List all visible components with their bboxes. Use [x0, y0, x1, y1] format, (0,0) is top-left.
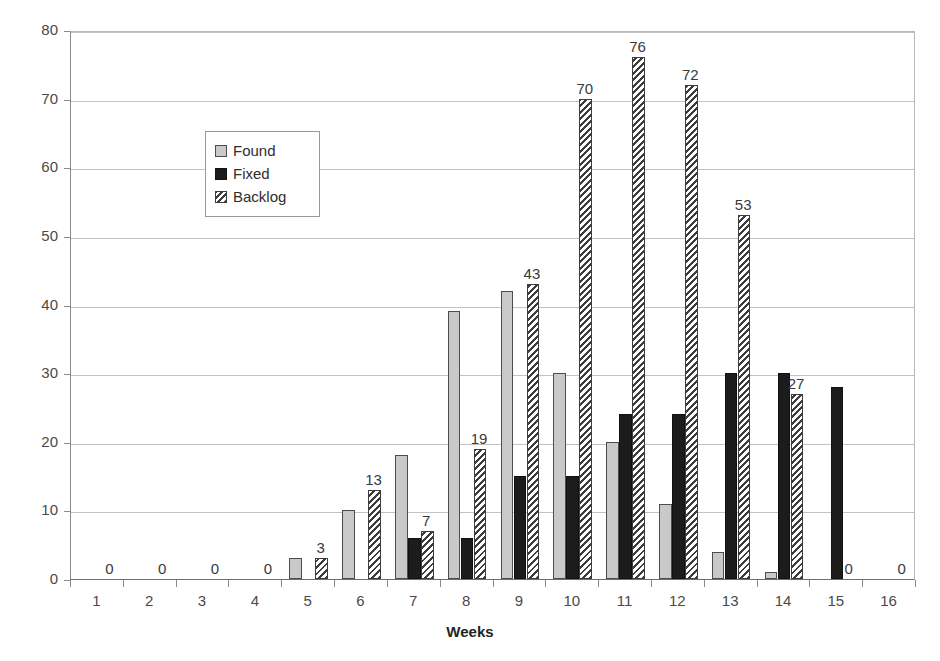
x-axis-title: Weeks: [0, 623, 940, 640]
gridline-70: [71, 101, 914, 102]
x-tick-mark-8: [440, 580, 441, 587]
x-tick-mark-15: [809, 580, 810, 587]
bar-found-week-13: [712, 552, 725, 579]
bar-fixed-week-10: [566, 476, 579, 579]
bar-found-week-11: [606, 442, 619, 579]
bar-backlog-week-11: [632, 57, 645, 579]
bar-backlog-week-8: [474, 449, 487, 579]
y-tick-label-40: 40: [12, 296, 58, 313]
value-label-week-10: 70: [565, 80, 605, 97]
bar-fixed-week-13: [725, 373, 738, 579]
x-tick-label-3: 3: [177, 592, 227, 609]
gridline-80: [71, 32, 914, 33]
x-tick-mark-11: [598, 580, 599, 587]
x-tick-label-12: 12: [652, 592, 702, 609]
x-tick-label-15: 15: [811, 592, 861, 609]
value-label-week-8: 19: [459, 430, 499, 447]
legend-label-fixed: Fixed: [233, 166, 270, 181]
value-label-week-1: 0: [89, 560, 129, 577]
bar-backlog-week-5: [315, 558, 328, 579]
x-tick-label-8: 8: [441, 592, 491, 609]
bar-found-week-12: [659, 504, 672, 579]
x-tick-mark-3: [176, 580, 177, 587]
legend-label-backlog: Backlog: [233, 189, 286, 204]
x-tick-mark-4: [228, 580, 229, 587]
value-label-week-5: 3: [301, 539, 341, 556]
y-tick-label-10: 10: [12, 501, 58, 518]
bar-found-week-9: [501, 291, 514, 579]
plot-area: [70, 31, 915, 580]
value-label-week-16: 0: [882, 560, 922, 577]
x-tick-label-16: 16: [864, 592, 914, 609]
gridline-40: [71, 307, 914, 308]
gridline-50: [71, 238, 914, 239]
x-tick-mark-14: [757, 580, 758, 587]
x-tick-label-5: 5: [283, 592, 333, 609]
bar-found-week-10: [553, 373, 566, 579]
x-tick-mark-16: [862, 580, 863, 587]
value-label-week-7: 7: [406, 512, 446, 529]
x-tick-mark-13: [704, 580, 705, 587]
x-tick-label-9: 9: [494, 592, 544, 609]
bar-backlog-week-14: [791, 394, 804, 579]
y-tick-label-0: 0: [12, 570, 58, 587]
legend-item-backlog: Backlog: [215, 185, 310, 208]
x-tick-label-10: 10: [547, 592, 597, 609]
chart-legend: Found Fixed Backlog: [205, 131, 320, 217]
bar-found-week-6: [342, 510, 355, 579]
x-tick-label-2: 2: [124, 592, 174, 609]
bar-backlog-week-13: [738, 215, 751, 579]
bar-found-week-14: [765, 572, 778, 579]
bar-backlog-week-7: [421, 531, 434, 579]
y-tick-label-80: 80: [12, 21, 58, 38]
x-tick-mark-end: [915, 580, 916, 587]
legend-label-found: Found: [233, 143, 276, 158]
x-tick-label-7: 7: [388, 592, 438, 609]
value-label-week-12: 72: [670, 66, 710, 83]
x-tick-label-13: 13: [705, 592, 755, 609]
y-tick-label-30: 30: [12, 364, 58, 381]
x-tick-mark-10: [545, 580, 546, 587]
value-label-week-15: 0: [829, 560, 869, 577]
legend-swatch-fixed-icon: [215, 168, 227, 180]
bar-fixed-week-8: [461, 538, 474, 579]
legend-item-found: Found: [215, 139, 310, 162]
legend-swatch-found-icon: [215, 145, 227, 157]
value-label-week-9: 43: [512, 265, 552, 282]
x-tick-mark-5: [281, 580, 282, 587]
bar-fixed-week-9: [514, 476, 527, 579]
bar-fixed-week-12: [672, 414, 685, 579]
value-label-week-3: 0: [195, 560, 235, 577]
x-tick-mark-9: [493, 580, 494, 587]
x-tick-mark-1: [70, 580, 71, 587]
y-tick-label-50: 50: [12, 227, 58, 244]
x-tick-label-6: 6: [335, 592, 385, 609]
bar-fixed-week-7: [408, 538, 421, 579]
bar-backlog-week-10: [579, 99, 592, 579]
value-label-week-13: 53: [723, 196, 763, 213]
legend-swatch-backlog-icon: [215, 191, 227, 203]
bar-fixed-week-15: [831, 387, 844, 579]
value-label-week-6: 13: [353, 471, 393, 488]
defect-trend-chart: Number of Defects 01020304050607080 0000…: [0, 0, 940, 661]
x-tick-label-1: 1: [71, 592, 121, 609]
value-label-week-4: 0: [248, 560, 288, 577]
y-tick-label-60: 60: [12, 158, 58, 175]
x-tick-label-14: 14: [758, 592, 808, 609]
bar-fixed-week-14: [778, 373, 791, 579]
legend-item-fixed: Fixed: [215, 162, 310, 185]
gridline-60: [71, 169, 914, 170]
y-tick-label-70: 70: [12, 90, 58, 107]
bar-backlog-week-12: [685, 85, 698, 579]
x-tick-mark-12: [651, 580, 652, 587]
bar-backlog-week-6: [368, 490, 381, 579]
y-tick-label-20: 20: [12, 433, 58, 450]
x-tick-label-11: 11: [600, 592, 650, 609]
value-label-week-2: 0: [142, 560, 182, 577]
bar-found-week-5: [289, 558, 302, 579]
x-tick-mark-2: [123, 580, 124, 587]
value-label-week-14: 27: [776, 375, 816, 392]
bar-fixed-week-11: [619, 414, 632, 579]
x-tick-label-4: 4: [230, 592, 280, 609]
bar-backlog-week-9: [527, 284, 540, 579]
